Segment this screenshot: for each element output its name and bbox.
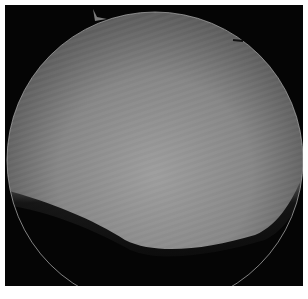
artifact-spike (93, 9, 107, 21)
field-of-view (5, 5, 303, 286)
image-frame (5, 5, 303, 286)
caption (0, 288, 308, 299)
artifact-mark (233, 40, 243, 41)
